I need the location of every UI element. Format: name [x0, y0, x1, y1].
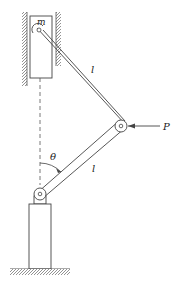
bottom-pivot	[34, 188, 46, 204]
middle-pin	[119, 124, 123, 128]
angle-arrowhead	[56, 168, 61, 173]
upper-link-length-label: l	[91, 64, 94, 75]
force-label: P	[162, 121, 170, 132]
support-column	[29, 204, 51, 269]
mass-label: m	[37, 17, 46, 27]
ground	[10, 269, 70, 275]
lower-link-length-label: l	[92, 163, 95, 174]
mechanism-diagram: m l P θ l	[0, 0, 180, 289]
top-pin	[37, 28, 41, 32]
left-guide-wall	[22, 12, 27, 86]
right-guide-wall	[56, 12, 61, 66]
angle-label: θ	[50, 151, 56, 162]
force-arrow	[128, 124, 160, 129]
